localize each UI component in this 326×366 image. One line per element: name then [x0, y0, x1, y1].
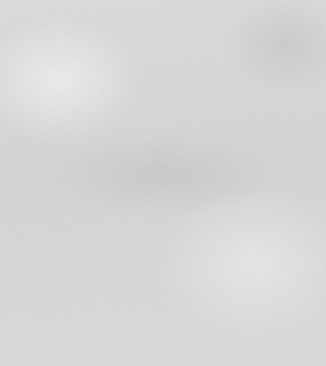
chart-title: WHAT A WOMAN GAINS IN AN AVERAGE PREGNAN…	[0, 0, 326, 5]
bar-body-fat	[268, 178, 289, 297]
y-tick-2: 2	[47, 223, 53, 235]
bar-uterus	[154, 229, 175, 297]
y-tick-1: 1	[47, 257, 53, 269]
y-tick-8: 8	[47, 20, 53, 32]
bar-placenta	[126, 250, 147, 297]
bar-other-fluids	[239, 206, 260, 298]
bar-chart: 0 1 2 3 4 5 6 7 8 Weight in Pounds Fetus…	[0, 0, 326, 366]
y-axis-tick-labels: 0 1 2 3 4 5 6 7 8	[47, 20, 54, 303]
y-tick-4: 4	[47, 156, 54, 168]
chart-title-clipped-region: WHAT A WOMAN GAINS IN AN AVERAGE PREGNAN…	[0, 0, 326, 6]
y-tick-6: 6	[47, 88, 53, 100]
y-tick-0: 0	[47, 291, 53, 303]
y-tick-5: 5	[47, 122, 53, 134]
bar-amniotic-fluid	[97, 236, 118, 297]
bar-blood	[211, 162, 232, 298]
y-tick-7: 7	[47, 54, 53, 66]
y-axis-title: Weight in Pounds	[14, 117, 26, 207]
bar-fetus	[69, 36, 90, 297]
y-tick-3: 3	[47, 189, 53, 201]
